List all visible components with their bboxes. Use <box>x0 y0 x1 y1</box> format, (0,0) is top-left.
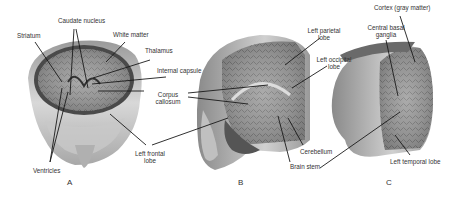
panel-b-rendering <box>197 35 310 170</box>
label-white-matter: White matter <box>113 31 149 38</box>
label-left-temporal-lobe: Left temporal lobe <box>390 158 440 165</box>
label-left-frontal-lobe-line1: Left frontal <box>130 150 170 157</box>
panel-label-c: C <box>386 178 392 187</box>
label-ventricles: Ventricles <box>33 167 60 174</box>
label-left-occipital-lobe-line2: lobe <box>311 63 357 70</box>
label-corpus-callosum: Corpus callosum <box>152 91 184 105</box>
label-striatum: Striatum <box>17 32 40 39</box>
label-cerebellum: Cerebellum <box>300 148 332 155</box>
panel-label-b: B <box>238 178 243 187</box>
label-left-frontal-lobe: Left frontal lobe <box>130 150 170 164</box>
label-internal-capsule: Internal capsule <box>157 67 201 74</box>
label-corpus-callosum-line1: Corpus <box>152 91 184 98</box>
label-left-parietal-lobe-line2: lobe <box>302 34 346 41</box>
label-left-parietal-lobe: Left parietal lobe <box>302 27 346 41</box>
label-central-basal-ganglia-line2: ganglia <box>363 31 409 38</box>
label-central-basal-ganglia: Central basal ganglia <box>363 24 409 38</box>
label-caudate-nucleus: Caudate nucleus <box>58 17 105 24</box>
label-cortex-gray-matter: Cortex (gray matter) <box>374 4 430 11</box>
label-brain-stem: Brain stem <box>290 163 320 170</box>
label-left-occipital-lobe: Left occipital lobe <box>311 56 357 70</box>
label-thalamus: Thalamus <box>145 47 173 54</box>
label-left-frontal-lobe-line2: lobe <box>130 157 170 164</box>
label-central-basal-ganglia-line1: Central basal <box>363 24 409 31</box>
panel-label-a: A <box>67 178 72 187</box>
label-left-occipital-lobe-line1: Left occipital <box>311 56 357 63</box>
label-left-parietal-lobe-line1: Left parietal <box>302 27 346 34</box>
brain-anatomy-figure: Caudate nucleus Striatum White matter Th… <box>0 0 458 197</box>
panel-a-rendering <box>28 41 142 168</box>
label-corpus-callosum-line2: callosum <box>152 98 184 105</box>
